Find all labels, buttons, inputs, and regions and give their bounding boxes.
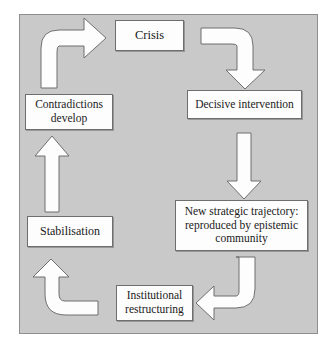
node-crisis[interactable]: Crisis [115, 20, 184, 51]
node-new-strategic-trajectory[interactable]: New strategic trajectory: reproduced by … [175, 200, 308, 251]
node-institutional-restructuring[interactable]: Institutional restructuring [116, 285, 193, 321]
node-stabilisation[interactable]: Stabilisation [27, 216, 113, 247]
node-contradictions-develop[interactable]: Contradictions develop [25, 94, 113, 130]
node-decisive-intervention[interactable]: Decisive intervention [187, 90, 302, 119]
diagram-figure: Crisis Decisive intervention New strateg… [0, 0, 336, 346]
